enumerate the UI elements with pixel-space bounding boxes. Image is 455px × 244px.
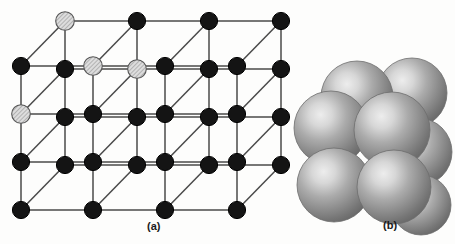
lattice-ion-dark <box>12 153 29 170</box>
lattice-ion-light <box>12 105 31 124</box>
lattice-ion-dark <box>200 12 217 29</box>
lattice-ion-dark <box>56 156 73 173</box>
lattice-ion-dark <box>12 201 29 218</box>
lattice-ion-dark <box>128 156 145 173</box>
lattice-ion-dark <box>228 57 245 74</box>
lattice-ion-dark <box>156 153 173 170</box>
lattice-ion-dark <box>272 60 289 77</box>
lattice-ion-dark <box>56 60 73 77</box>
lattice-ion-dark <box>228 105 245 122</box>
panel-b-caption: (b) <box>383 219 397 231</box>
space-filling-spheres <box>294 58 452 235</box>
lattice-ion-dark <box>228 153 245 170</box>
figure-canvas <box>0 0 455 244</box>
crystal-structure-figure: (a) (b) <box>0 0 455 244</box>
lattice-ion-dark <box>272 108 289 125</box>
lattice-ion-dark <box>228 201 245 218</box>
lattice-ion-dark <box>84 153 101 170</box>
lattice-ion-light <box>56 12 75 31</box>
lattice-ion-dark <box>156 201 173 218</box>
lattice-ion-dark <box>84 201 101 218</box>
lattice-ion-dark <box>200 108 217 125</box>
panel-a-caption: (a) <box>147 220 160 232</box>
lattice-ion-dark <box>128 12 145 29</box>
lattice-ion-dark <box>200 60 217 77</box>
lattice-ion-dark <box>156 105 173 122</box>
packing-sphere <box>357 150 431 224</box>
lattice-ion-dark <box>128 108 145 125</box>
lattice-ion-dark <box>12 57 29 74</box>
lattice-ion-dark <box>156 57 173 74</box>
lattice-ion-dark <box>56 108 73 125</box>
lattice-ion-light <box>84 57 103 76</box>
lattice-ion-dark <box>200 156 217 173</box>
lattice-ion-dark <box>84 105 101 122</box>
lattice-ion-nodes <box>12 12 290 219</box>
lattice-ion-dark <box>272 156 289 173</box>
lattice-ion-dark <box>272 12 289 29</box>
lattice-ion-light <box>128 60 147 79</box>
